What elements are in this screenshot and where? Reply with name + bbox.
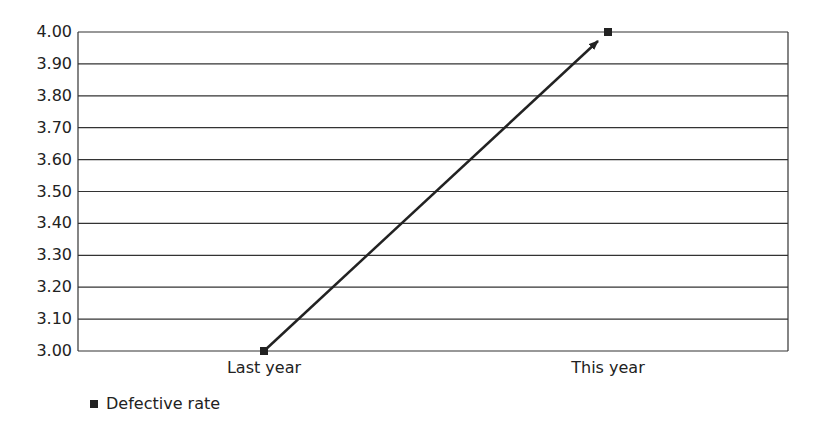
y-tick-label: 3.40	[0, 215, 72, 231]
legend-square-icon	[90, 400, 98, 408]
y-tick-label: 3.10	[0, 311, 72, 327]
y-tick-label: 3.20	[0, 279, 72, 295]
chart-plot	[0, 0, 814, 425]
y-tick-label: 3.60	[0, 152, 72, 168]
y-tick-label: 3.70	[0, 120, 72, 136]
legend: Defective rate	[90, 394, 220, 413]
y-tick-label: 3.80	[0, 88, 72, 104]
y-tick-label: 3.00	[0, 343, 72, 359]
y-tick-label: 3.30	[0, 247, 72, 263]
legend-label: Defective rate	[106, 394, 220, 413]
y-tick-label: 3.90	[0, 56, 72, 72]
x-tick-label: This year	[571, 358, 644, 377]
y-tick-label: 3.50	[0, 184, 72, 200]
x-tick-label: Last year	[227, 358, 301, 377]
y-tick-label: 4.00	[0, 24, 72, 40]
